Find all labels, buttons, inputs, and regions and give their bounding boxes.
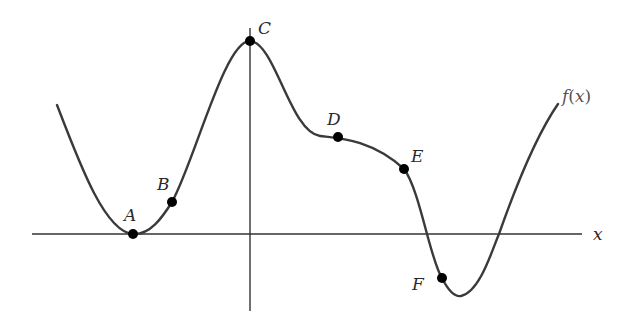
point-label-d: D bbox=[326, 109, 341, 129]
point-e bbox=[399, 164, 409, 174]
point-c bbox=[245, 36, 255, 46]
point-label-c: C bbox=[258, 18, 271, 38]
x-axis-label: x bbox=[593, 224, 603, 244]
point-d bbox=[333, 132, 343, 142]
point-label-a: A bbox=[122, 205, 136, 225]
point-b bbox=[167, 197, 177, 207]
function-graph: ABCDEF x f(x) bbox=[0, 0, 627, 321]
labeled-points: ABCDEF bbox=[122, 18, 447, 294]
curve-label: f(x) bbox=[560, 86, 591, 106]
point-a bbox=[128, 229, 138, 239]
function-curve bbox=[57, 41, 558, 296]
point-label-b: B bbox=[156, 174, 170, 194]
point-label-e: E bbox=[410, 146, 424, 166]
point-label-f: F bbox=[411, 274, 425, 294]
point-f bbox=[437, 273, 447, 283]
